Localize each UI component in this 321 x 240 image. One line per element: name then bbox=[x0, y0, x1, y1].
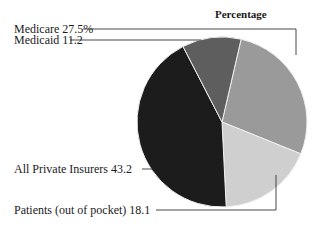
label-patients: Patients (out of pocket) 18.1 bbox=[14, 203, 150, 217]
label-medicaid: Medicaid 11.2 bbox=[14, 33, 83, 47]
label-private-insurers: All Private Insurers 43.2 bbox=[14, 162, 132, 176]
